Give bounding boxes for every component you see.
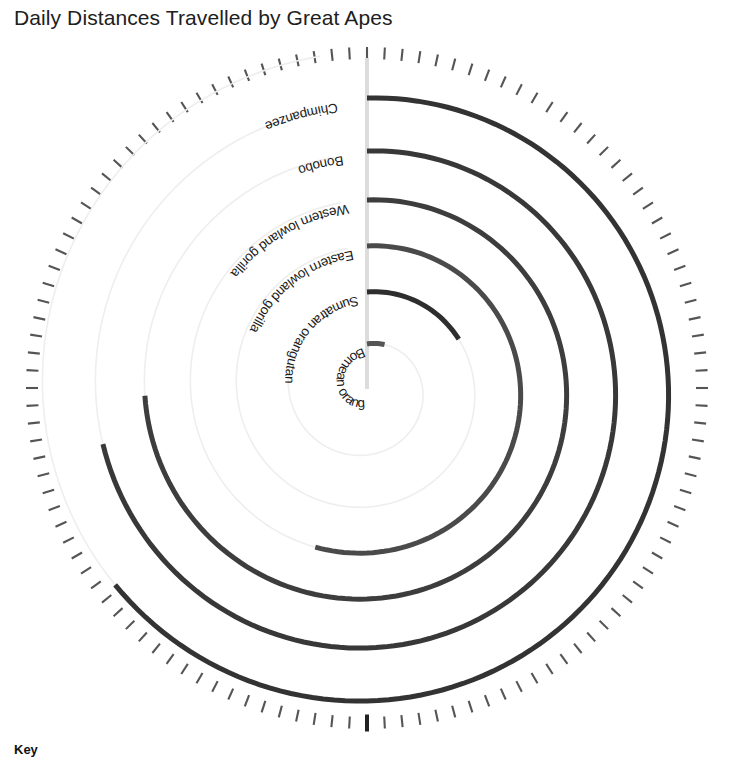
series-label-bornean-orangutan: Bornean orangutan bbox=[0, 0, 367, 411]
axis-tick bbox=[674, 266, 685, 270]
axis-tick bbox=[63, 537, 74, 542]
series-label-bonobo: Bonobo bbox=[296, 153, 344, 178]
guide-spirals bbox=[42, 56, 668, 701]
axis-tick bbox=[560, 654, 567, 664]
key-heading: Key bbox=[14, 742, 38, 757]
axis-tick bbox=[680, 283, 691, 287]
axis-tick bbox=[28, 422, 40, 423]
axis-tick bbox=[401, 49, 402, 61]
axis-tick bbox=[63, 233, 74, 238]
axis-tick bbox=[660, 233, 671, 238]
axis-tick bbox=[279, 706, 282, 718]
axis-tick bbox=[349, 47, 350, 59]
axis-tick bbox=[574, 123, 582, 132]
axis-tick bbox=[181, 664, 188, 674]
axis-tick bbox=[418, 51, 420, 63]
axis-tick bbox=[33, 317, 45, 320]
axis-tick bbox=[680, 490, 691, 494]
axis-tick bbox=[532, 93, 538, 103]
axis-tick bbox=[546, 102, 553, 112]
guide-spiral bbox=[236, 248, 474, 507]
axis-tick bbox=[262, 701, 266, 712]
axis-tick bbox=[574, 644, 582, 653]
axis-tick bbox=[692, 335, 704, 337]
series-label-eastern-lowland-gorilla: Eastern lowland gorilla bbox=[247, 247, 355, 335]
axis-tick bbox=[694, 352, 706, 353]
axis-tick bbox=[167, 654, 174, 664]
axis-tick bbox=[114, 608, 123, 616]
axis-tick bbox=[49, 266, 60, 270]
axis-tick bbox=[91, 581, 101, 588]
axis-tick bbox=[600, 147, 608, 155]
axis-tick bbox=[501, 76, 506, 87]
spiral-chart: ChimpanzeeBonoboWestern lowland gorillaE… bbox=[0, 0, 733, 773]
axis-tick bbox=[296, 710, 299, 722]
axis-tick bbox=[43, 283, 54, 287]
axis-tick bbox=[623, 595, 632, 603]
axis-tick bbox=[72, 553, 82, 559]
axis-tick bbox=[660, 537, 671, 542]
axis-tick bbox=[611, 160, 620, 168]
axis-tick bbox=[469, 64, 473, 75]
axis-tick bbox=[349, 717, 350, 729]
axis-tick bbox=[91, 188, 101, 195]
axis-tick bbox=[668, 522, 679, 527]
axis-tick bbox=[26, 370, 38, 371]
axis-tick bbox=[152, 644, 160, 653]
axis-tick bbox=[546, 664, 553, 674]
axis-tick bbox=[114, 160, 123, 168]
axis-tick bbox=[689, 317, 701, 320]
axis-tick bbox=[694, 422, 706, 423]
axis-tick bbox=[197, 673, 203, 683]
axis-tick bbox=[668, 249, 679, 254]
axis-tick bbox=[384, 717, 385, 729]
axis-tick bbox=[560, 112, 567, 122]
axis-tick bbox=[38, 300, 50, 303]
axis-tick bbox=[245, 695, 249, 706]
data-arc[interactable] bbox=[367, 292, 459, 339]
axis-tick bbox=[72, 218, 82, 224]
data-arc[interactable] bbox=[115, 98, 668, 701]
axis-tick bbox=[49, 506, 60, 510]
series-label-western-lowland-gorilla: Western lowland gorilla bbox=[228, 202, 350, 281]
axis-tick bbox=[139, 632, 147, 641]
axis-tick bbox=[28, 352, 40, 353]
axis-tick bbox=[485, 70, 489, 81]
axis-tick bbox=[331, 49, 332, 61]
axis-tick bbox=[435, 54, 438, 66]
axis-tick bbox=[452, 59, 455, 71]
axis-tick bbox=[30, 335, 42, 337]
axis-tick bbox=[55, 249, 66, 254]
axis-tick bbox=[516, 84, 521, 95]
series-label-chimpanzee: Chimpanzee bbox=[263, 100, 339, 134]
axis-tick bbox=[587, 135, 595, 144]
axis-tick bbox=[633, 581, 643, 588]
axis-tick bbox=[33, 456, 45, 459]
axis-tick bbox=[26, 405, 38, 406]
axis-tick bbox=[643, 202, 653, 209]
axis-tick bbox=[652, 553, 662, 559]
axis-tick bbox=[418, 713, 420, 725]
axis-tick bbox=[696, 405, 708, 406]
axis-tick bbox=[401, 715, 402, 727]
data-arc-group bbox=[103, 98, 669, 701]
axis-tick bbox=[587, 632, 595, 641]
axis-tick bbox=[314, 713, 316, 725]
axis-tick bbox=[331, 715, 332, 727]
axis-tick bbox=[38, 473, 50, 476]
series-label-group: ChimpanzeeBonoboWestern lowland gorillaE… bbox=[0, 0, 367, 411]
axis-tick bbox=[262, 64, 266, 75]
data-arc[interactable] bbox=[367, 343, 385, 344]
axis-tick bbox=[485, 695, 489, 706]
axis-tick bbox=[43, 490, 54, 494]
axis-tick bbox=[692, 439, 704, 441]
axis-tick bbox=[55, 522, 66, 527]
axis-tick bbox=[228, 689, 233, 700]
axis-tick bbox=[685, 300, 697, 303]
axis-tick bbox=[102, 595, 111, 603]
axis-tick bbox=[469, 701, 473, 712]
axis-tick bbox=[532, 673, 538, 683]
axis-tick bbox=[30, 439, 42, 441]
axis-tick bbox=[212, 681, 217, 692]
axis-tick bbox=[633, 188, 643, 195]
